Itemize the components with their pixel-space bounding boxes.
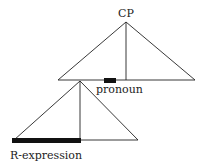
upper-triangle xyxy=(58,22,195,80)
cp-label: CP xyxy=(118,7,134,20)
r-expression-marker xyxy=(12,138,81,143)
syntax-tree-diagram: CP pronoun R-expression xyxy=(0,0,206,167)
r-expression-label: R-expression xyxy=(10,149,82,162)
pronoun-label: pronoun xyxy=(96,83,143,96)
